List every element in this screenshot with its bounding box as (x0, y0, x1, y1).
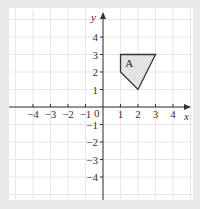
y-tick-label: −3 (86, 154, 98, 166)
x-tick-label: 3 (153, 108, 159, 120)
y-tick-label: −4 (86, 171, 98, 183)
y-tick-label: 2 (93, 66, 99, 78)
x-tick-label: −2 (62, 108, 74, 120)
y-tick-label: 3 (93, 49, 99, 61)
x-tick-label: 1 (118, 108, 124, 120)
shape-a-label: A (125, 57, 133, 69)
origin-label: 0 (94, 107, 100, 119)
y-tick-label: −2 (86, 136, 98, 148)
x-tick-label: 2 (135, 108, 141, 120)
y-tick-label: 4 (93, 31, 99, 43)
y-axis-label: y (90, 11, 96, 23)
y-axis-arrow-icon (100, 12, 106, 19)
y-tick-label: 1 (93, 84, 99, 96)
coordinate-plane: x y 0 −4−3−2−112344321−1−2−3−4 A (0, 0, 200, 209)
axes: x y 0 (9, 11, 191, 200)
x-axis-label: x (183, 110, 189, 122)
x-tick-label: −3 (45, 108, 57, 120)
x-tick-label: −4 (27, 108, 39, 120)
y-tick-label: −1 (86, 119, 98, 131)
x-tick-label: 4 (170, 108, 176, 120)
